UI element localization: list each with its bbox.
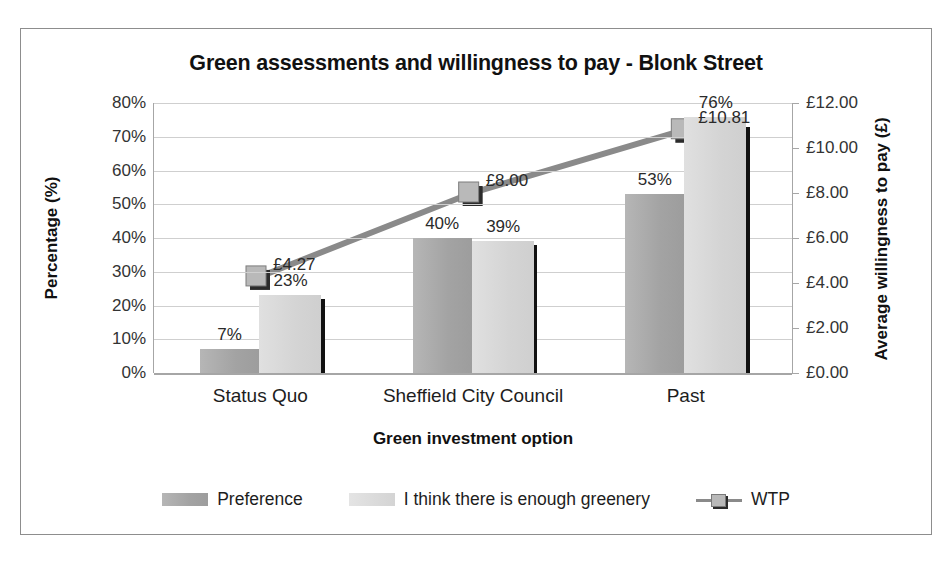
chart-legend: Preference I think there is enough green… — [21, 489, 931, 510]
y2-tick-3 — [792, 238, 799, 239]
bar-preference-2[interactable] — [625, 194, 684, 373]
legend-item-wtp[interactable]: WTP — [696, 489, 790, 510]
y2-tick-label-3: £6.00 — [806, 228, 849, 248]
bar-greenery-0[interactable] — [259, 295, 321, 373]
y2-tick-4 — [792, 193, 799, 194]
y2-tick-label-0: £0.00 — [806, 363, 849, 383]
y2-tick-1 — [792, 328, 799, 329]
x-tick-label-2: Past — [667, 385, 705, 407]
y-axis-title-right: Average willingness to pay (£) — [869, 89, 895, 389]
y2-tick-5 — [792, 148, 799, 149]
y-tick-label-80%: 80% — [112, 93, 146, 113]
y-tick-label-40%: 40% — [112, 228, 146, 248]
y-axis-title-right-text: Average willingness to pay (£) — [872, 117, 892, 360]
chart-container: Green assessments and willingness to pay… — [20, 28, 932, 535]
wtp-marker-square — [711, 494, 726, 507]
wtp-marker-0[interactable] — [246, 266, 266, 286]
bar-greenery-2[interactable] — [684, 117, 746, 374]
y-axis-title-left-text: Percentage (%) — [42, 177, 62, 300]
bar-label-preference-0: 7% — [217, 325, 242, 345]
wtp-marker-1[interactable] — [459, 182, 479, 202]
y2-tick-label-2: £4.00 — [806, 273, 849, 293]
preference-swatch-icon — [162, 493, 208, 506]
y2-tick-6 — [792, 103, 799, 104]
legend-label-greenery: I think there is enough greenery — [404, 489, 650, 510]
y-axis-title-left: Percentage (%) — [39, 103, 65, 373]
y2-tick-label-1: £2.00 — [806, 318, 849, 338]
bar-preference-0[interactable] — [200, 349, 259, 373]
y2-tick-label-6: £12.00 — [806, 93, 858, 113]
bar-preference-1[interactable] — [413, 238, 472, 373]
wtp-marker-shadow-1 — [463, 186, 483, 206]
wtp-data-label-0: £4.27 — [273, 255, 316, 275]
wtp-marker-icon — [696, 492, 742, 508]
y-tick-label-10%: 10% — [112, 329, 146, 349]
y-tick-label-60%: 60% — [112, 161, 146, 181]
x-axis-title: Green investment option — [153, 429, 793, 449]
y2-tick-label-4: £8.00 — [806, 183, 849, 203]
greenery-swatch-icon — [349, 493, 395, 506]
wtp-data-label-1: £8.00 — [486, 171, 529, 191]
legend-item-preference[interactable]: Preference — [162, 489, 303, 510]
wtp-marker-shadow-0 — [250, 270, 270, 290]
error-bar-1 — [534, 245, 538, 373]
plot-area: 0%10%20%30%40%50%60%70%80%£0.00£2.00£4.0… — [153, 103, 793, 373]
gridline-80% — [154, 103, 792, 104]
chart-title: Green assessments and willingness to pay… — [21, 51, 931, 76]
legend-label-preference: Preference — [217, 489, 303, 510]
legend-label-wtp: WTP — [751, 489, 790, 510]
bar-label-preference-2: 53% — [638, 170, 672, 190]
y2-tick-0 — [792, 373, 799, 374]
y-tick-label-70%: 70% — [112, 127, 146, 147]
bar-label-preference-1: 40% — [425, 214, 459, 234]
x-tick-label-0: Status Quo — [213, 385, 308, 407]
bar-greenery-1[interactable] — [472, 241, 534, 373]
x-tick-label-1: Sheffield City Council — [383, 385, 563, 407]
y-tick-label-20%: 20% — [112, 296, 146, 316]
gridline-0% — [154, 373, 792, 375]
wtp-data-label-2: £10.81 — [698, 108, 750, 128]
y-tick-label-50%: 50% — [112, 194, 146, 214]
y2-tick-2 — [792, 283, 799, 284]
legend-item-greenery[interactable]: I think there is enough greenery — [349, 489, 650, 510]
y-tick-label-30%: 30% — [112, 262, 146, 282]
error-bar-2 — [746, 127, 750, 373]
error-bar-0 — [321, 299, 325, 373]
y-tick-label-0%: 0% — [121, 363, 146, 383]
y2-tick-label-5: £10.00 — [806, 138, 858, 158]
bar-label-greenery-1: 39% — [486, 217, 520, 237]
